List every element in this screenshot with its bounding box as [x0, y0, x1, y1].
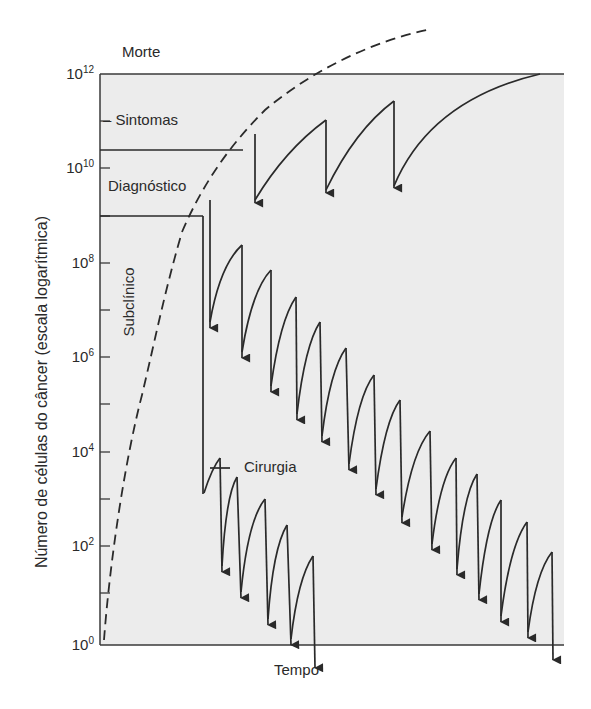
ytick-1e0: 100: [34, 635, 94, 653]
ytick-1e6: 106: [34, 347, 94, 365]
symptoms-label: – Sintomas: [103, 111, 178, 128]
ytick-1e2: 102: [34, 536, 94, 554]
ytick-1e8: 108: [34, 253, 94, 271]
ytick-1e12: 1012: [34, 64, 94, 82]
plot-area: [100, 74, 564, 645]
death-label: Morte: [122, 43, 160, 60]
subclinical-label: Subclínico: [120, 267, 137, 336]
surgery-label: Cirurgia: [244, 458, 297, 475]
x-axis-title: Tempo: [274, 661, 319, 678]
ytick-1e10: 1010: [34, 158, 94, 176]
symptoms-tick: –: [103, 111, 116, 128]
diagnosis-label: Diagnóstico: [108, 177, 186, 194]
ytick-1e4: 104: [34, 442, 94, 460]
